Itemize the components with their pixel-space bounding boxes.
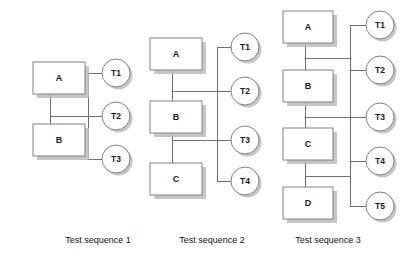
sequence-caption: Test sequence 3 [295, 235, 361, 245]
module-node-c[interactable]: C [150, 163, 206, 199]
test-circle-label: T2 [111, 111, 121, 121]
module-box-label: A [173, 49, 180, 59]
test-circle-label: T3 [111, 154, 121, 164]
test-circle-label: T3 [240, 135, 250, 145]
module-box-label: A [305, 22, 312, 32]
test-node-t5[interactable]: T5 [366, 192, 397, 223]
module-box-label: B [173, 112, 180, 122]
sequence-1-group: ABT1T2T3Test sequence 1 [33, 59, 133, 245]
test-node-t2[interactable]: T2 [231, 77, 262, 108]
sequence-2-group: ABCT1T2T3T4Test sequence 2 [150, 33, 262, 245]
module-node-d[interactable]: D [283, 187, 337, 223]
module-node-c[interactable]: C [283, 128, 337, 164]
test-node-t4[interactable]: T4 [231, 167, 262, 198]
test-circle-label: T4 [240, 176, 250, 186]
module-box-label: A [56, 73, 63, 83]
test-circle-label: T1 [111, 68, 121, 78]
test-node-t4[interactable]: T4 [366, 147, 397, 178]
test-circle-label: T5 [375, 201, 385, 211]
test-circle-label: T2 [240, 86, 250, 96]
test-sequence-diagram: ABT1T2T3Test sequence 1ABCT1T2T3T4Test s… [0, 0, 414, 261]
test-node-t3[interactable]: T3 [366, 103, 397, 134]
module-box-label: B [56, 135, 63, 145]
module-node-a[interactable]: A [150, 38, 206, 74]
sequence-caption: Test sequence 1 [65, 235, 131, 245]
test-node-t2[interactable]: T2 [102, 102, 133, 133]
module-node-a[interactable]: A [283, 11, 337, 47]
test-node-t2[interactable]: T2 [366, 56, 397, 87]
module-box-label: D [305, 198, 312, 208]
test-node-t3[interactable]: T3 [102, 145, 133, 176]
test-node-t3[interactable]: T3 [231, 126, 262, 157]
test-node-t1[interactable]: T1 [366, 11, 397, 42]
test-node-t1[interactable]: T1 [102, 59, 133, 90]
test-node-t1[interactable]: T1 [231, 33, 262, 64]
module-box-label: C [305, 139, 312, 149]
sequence-3-group: ABCDT1T2T3T4T5Test sequence 3 [283, 11, 397, 245]
module-box-label: C [173, 174, 180, 184]
sequence-3-connectors [305, 25, 366, 206]
test-circle-label: T4 [375, 156, 385, 166]
module-node-b[interactable]: B [33, 124, 89, 160]
sequence-caption: Test sequence 2 [179, 235, 245, 245]
test-circle-label: T1 [240, 42, 250, 52]
module-node-a[interactable]: A [33, 62, 89, 98]
module-box-label: B [305, 81, 312, 91]
test-circle-label: T1 [375, 20, 385, 30]
test-circle-label: T3 [375, 112, 385, 122]
module-node-b[interactable]: B [283, 70, 337, 106]
module-node-b[interactable]: B [150, 101, 206, 137]
diagram-canvas: ABT1T2T3Test sequence 1ABCT1T2T3T4Test s… [0, 0, 414, 261]
test-circle-label: T2 [375, 65, 385, 75]
